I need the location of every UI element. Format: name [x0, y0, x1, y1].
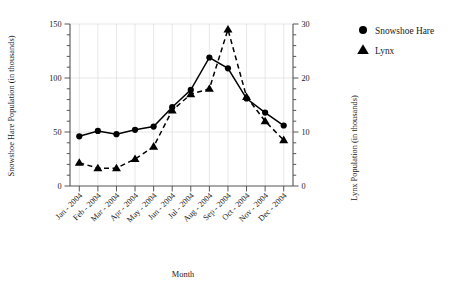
- legend-label: Snowshoe Hare: [375, 26, 434, 36]
- circle-marker-icon: [359, 26, 367, 34]
- y-axis-right-tick-label: 10: [302, 128, 310, 137]
- y-axis-right-tick-label: 20: [302, 74, 310, 83]
- y-axis-left-tick-label: 100: [49, 74, 61, 83]
- y-axis-right-tick-label: 0: [302, 182, 306, 191]
- y-axis-left-title: Snowshoe Hare Population (in thousands): [7, 35, 16, 176]
- legend-label: Lynx: [375, 46, 395, 56]
- chart-figure: 050100150 0102030 Jan - 2004Feb - 2004Ma…: [0, 0, 470, 296]
- y-axis-left-tick-label: 0: [57, 182, 61, 191]
- y-axis-left-tick-label: 50: [53, 128, 61, 137]
- x-axis-title: Month: [172, 270, 195, 279]
- population-line-chart: 050100150 0102030 Jan - 2004Feb - 2004Ma…: [0, 0, 470, 296]
- y-axis-right-title: Lynx Population (in thousands): [350, 95, 359, 201]
- y-axis-right-tick-label: 30: [302, 20, 310, 29]
- y-axis-left-tick-label: 150: [49, 20, 61, 29]
